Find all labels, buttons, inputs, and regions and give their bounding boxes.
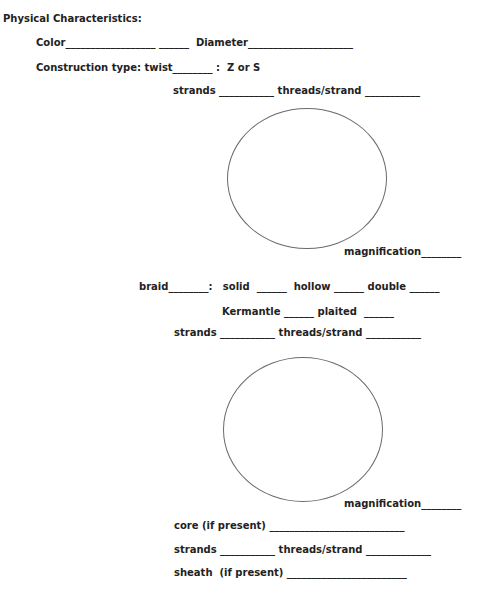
twist-cross-section-circle xyxy=(227,108,387,249)
braid-strands-row[interactable]: strands ___________ threads/strand _____… xyxy=(174,327,421,339)
construction-type-row[interactable]: Construction type: twist________ : Z or … xyxy=(36,62,260,74)
twist-strands-row[interactable]: strands ___________ threads/strand _____… xyxy=(173,85,420,97)
color-diameter-row[interactable]: Color__________________ ______ Diameter_… xyxy=(36,37,353,49)
section-heading: Physical Characteristics: xyxy=(3,13,142,25)
braid-cross-section-circle xyxy=(223,357,383,502)
sheath-row[interactable]: sheath (if present) ____________________… xyxy=(174,567,407,579)
kermantle-plaited-row[interactable]: Kermantle ______ plaited ______ xyxy=(222,306,394,318)
core-row[interactable]: core (if present) ______________________… xyxy=(174,520,404,532)
core-strands-row[interactable]: strands ___________ threads/strand _____… xyxy=(174,544,431,556)
braid-magnification-row[interactable]: magnification________ xyxy=(344,498,461,510)
braid-type-row[interactable]: braid________: solid ______ hollow _____… xyxy=(139,281,440,293)
twist-magnification-row[interactable]: magnification________ xyxy=(344,246,461,258)
